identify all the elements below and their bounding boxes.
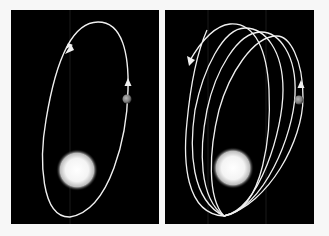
orbit-diagram [11, 10, 159, 224]
orbit-paths [186, 24, 303, 216]
star-icon [212, 147, 254, 189]
direction-arrow-icon [125, 78, 132, 86]
star-icon [56, 149, 98, 191]
closed-orbit-panel: Closed elliptical orbit [11, 10, 159, 224]
orbit-diagram [165, 10, 314, 224]
direction-arrow-icon [298, 80, 305, 88]
planet-icon [295, 96, 304, 105]
precessing-orbit-panel: Precessing elliptical orbit [165, 10, 314, 224]
planet-icon [123, 95, 132, 104]
